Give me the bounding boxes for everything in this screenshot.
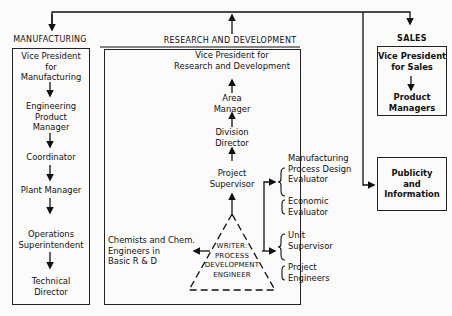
economic-evaluator: Economic Evaluator bbox=[288, 196, 329, 217]
project-supervisor: Project Supervisor bbox=[197, 168, 267, 189]
chemists-basic-rd: Chemists and Chem. Engineers in Basic R … bbox=[108, 235, 195, 267]
vp-sales: Vice President for Sales bbox=[377, 51, 447, 72]
manufacturing-header: MANUFACTURING bbox=[4, 35, 96, 46]
manufacturing-process-design-evaluator: Manufacturing Process Design Evaluator bbox=[288, 153, 351, 185]
project-engineers: Project Engineers bbox=[288, 262, 330, 283]
operations-superintendent: Operations Superintendent bbox=[12, 229, 90, 250]
coordinator: Coordinator bbox=[12, 152, 90, 163]
vp-research: Vice President for Research and Developm… bbox=[130, 50, 334, 71]
engineering-product-manager: Engineering Product Manager bbox=[12, 101, 90, 133]
sales-header: SALES bbox=[377, 34, 447, 45]
vp-manufacturing: Vice President for Manufacturing bbox=[12, 51, 90, 83]
plant-manager: Plant Manager bbox=[12, 185, 90, 196]
product-managers: Product Managers bbox=[377, 92, 447, 113]
publicity-and-information: Publicity and Information bbox=[377, 168, 447, 200]
manufacturing-box bbox=[12, 48, 90, 305]
division-director: Division Director bbox=[202, 127, 262, 148]
technical-director: Technical Director bbox=[12, 276, 90, 297]
area-manager: Area Manager bbox=[202, 93, 262, 114]
writer-process-development-engineer: WRITER: PROCESS DEVELOPMENT ENGINEER bbox=[197, 242, 267, 280]
research-header: RESEARCH AND DEVELOPMENT bbox=[130, 36, 330, 47]
unit-supervisor: Unit Supervisor bbox=[288, 230, 333, 251]
